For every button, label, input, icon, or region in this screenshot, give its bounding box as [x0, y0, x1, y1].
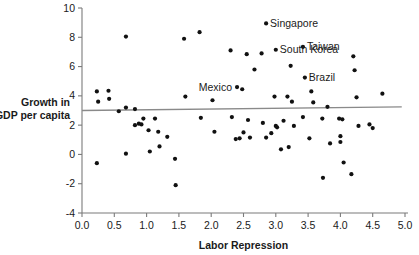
annotated-data-point	[303, 75, 307, 79]
data-point	[325, 105, 329, 109]
data-point	[124, 34, 128, 38]
regression-trend-line	[82, 107, 402, 111]
x-tick-label: 3.5	[301, 219, 316, 231]
point-annotation-label: Singapore	[270, 17, 318, 29]
scatter-plot-figure: 1086420-2-40.00.51.01.52.02.53.03.54.04.…	[0, 0, 419, 255]
data-point	[261, 121, 265, 125]
data-point	[354, 95, 358, 99]
y-tick-label: 8	[69, 31, 75, 43]
y-tick-label: -4	[66, 207, 75, 219]
point-annotation-label: Brazil	[309, 71, 335, 83]
data-point	[146, 128, 150, 132]
data-point	[356, 124, 360, 128]
data-point	[148, 149, 152, 153]
y-axis-title-line2: GDP per capita	[0, 109, 70, 121]
data-point	[338, 140, 342, 144]
x-axis-title: Labor Repression	[199, 239, 288, 251]
data-point	[269, 131, 273, 135]
data-point	[307, 136, 311, 140]
y-tick-label: 10	[63, 2, 75, 14]
data-point	[380, 92, 384, 96]
data-point	[367, 122, 371, 126]
data-point	[124, 105, 128, 109]
y-tick-label: 6	[69, 60, 75, 72]
data-point	[228, 48, 232, 52]
data-point	[290, 100, 294, 104]
x-tick-label: 0.0	[75, 219, 90, 231]
point-annotation-label: South Korea	[280, 43, 339, 55]
x-tick-label: 4.0	[333, 219, 348, 231]
data-point	[321, 176, 325, 180]
data-point	[141, 116, 145, 120]
data-point	[157, 144, 161, 148]
data-point	[156, 130, 160, 134]
data-point	[182, 37, 186, 41]
data-point	[338, 134, 342, 138]
data-point	[153, 116, 157, 120]
data-point	[234, 137, 238, 141]
data-point	[351, 54, 355, 58]
data-point	[238, 136, 242, 140]
y-axis-title-line1: Growth in	[21, 96, 70, 108]
annotated-data-point	[264, 21, 268, 25]
data-point	[95, 161, 99, 165]
data-point	[106, 89, 110, 93]
data-point	[133, 123, 137, 127]
x-tick-label: 0.5	[107, 219, 122, 231]
data-point	[285, 94, 289, 98]
chart-canvas: 1086420-2-40.00.51.01.52.02.53.03.54.04.…	[0, 0, 419, 255]
x-tick-label: 1.5	[172, 219, 187, 231]
data-point	[328, 141, 332, 145]
x-tick-label: 3.0	[268, 219, 283, 231]
data-point	[275, 125, 279, 129]
data-point	[340, 117, 344, 121]
data-point	[342, 160, 346, 164]
data-point	[259, 51, 263, 55]
data-point	[248, 135, 252, 139]
x-tick-label: 2.5	[236, 219, 251, 231]
data-point	[292, 124, 296, 128]
data-point	[165, 135, 169, 139]
y-tick-label: 2	[69, 119, 75, 131]
annotated-data-point	[274, 48, 278, 52]
data-point	[230, 115, 234, 119]
data-point	[117, 109, 121, 113]
data-point	[96, 100, 100, 104]
data-point	[301, 115, 305, 119]
data-point	[349, 172, 353, 176]
data-point	[246, 118, 250, 122]
data-point	[183, 94, 187, 98]
data-point	[371, 126, 375, 130]
y-tick-label: 0	[69, 148, 75, 160]
y-tick-label: 4	[69, 89, 75, 101]
data-point	[133, 107, 137, 111]
data-point	[309, 89, 313, 93]
data-point	[174, 183, 178, 187]
data-point	[245, 52, 249, 56]
data-point	[139, 122, 143, 126]
point-annotation-label: Mexico	[199, 81, 232, 93]
data-point	[252, 67, 256, 71]
data-point	[279, 147, 283, 151]
data-point	[281, 119, 285, 123]
data-point	[264, 135, 268, 139]
x-tick-label: 2.0	[204, 219, 219, 231]
data-point	[95, 89, 99, 93]
data-point	[287, 145, 291, 149]
data-point	[311, 100, 315, 104]
data-point	[107, 97, 111, 101]
x-tick-label: 5.0	[398, 219, 413, 231]
data-point	[272, 94, 276, 98]
data-point	[173, 157, 177, 161]
x-tick-label: 1.0	[139, 219, 154, 231]
data-point	[124, 152, 128, 156]
data-point	[320, 116, 324, 120]
annotated-data-point	[235, 85, 239, 89]
data-point	[199, 116, 203, 120]
data-point	[197, 30, 201, 34]
data-point	[240, 87, 244, 91]
data-point	[289, 64, 293, 68]
x-tick-label: 4.5	[365, 219, 380, 231]
data-point	[210, 98, 214, 102]
data-point	[212, 130, 216, 134]
